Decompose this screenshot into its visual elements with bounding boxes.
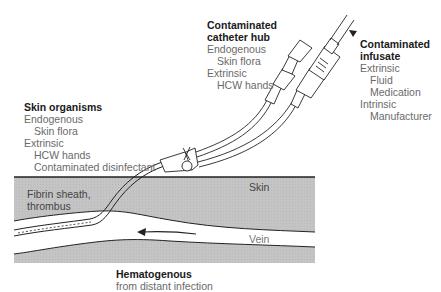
infusate-extrinsic-item1: Fluid xyxy=(360,74,432,86)
vein-label: Vein xyxy=(249,233,269,245)
hematogenous-detail: from distant infection xyxy=(116,280,213,292)
skin-extrinsic: Extrinsic xyxy=(24,137,155,149)
skin-extrinsic-item1: HCW hands xyxy=(24,149,155,161)
infusate-label: Contaminated infusate Extrinsic Fluid Me… xyxy=(360,38,432,122)
catheter-lumens xyxy=(196,98,296,167)
catheter-hub-title-line2: catheter hub xyxy=(207,31,277,43)
infusate-intrinsic-item: Manufacturer xyxy=(360,110,432,122)
skin-endogenous-item: Skin flora xyxy=(24,125,155,137)
hematogenous-title: Hematogenous xyxy=(116,268,213,280)
infusate-title-line2: infusate xyxy=(360,50,432,62)
skin-organisms-title: Skin organisms xyxy=(24,101,155,113)
hub-extrinsic-item: HCW hands xyxy=(207,79,277,91)
hub-endogenous-item: Skin flora xyxy=(207,55,277,67)
infusion-arrow-icon xyxy=(349,30,357,37)
infusate-title-line1: Contaminated xyxy=(360,38,432,50)
skin-label: Skin xyxy=(249,181,269,193)
fibrin-label-line2: thrombus xyxy=(27,200,91,212)
skin-endogenous: Endogenous xyxy=(24,113,155,125)
fibrin-label-line1: Fibrin sheath, xyxy=(27,188,91,200)
skin-extrinsic-item2: Contaminated disinfectant xyxy=(24,161,155,173)
hematogenous-label: Hematogenous from distant infection xyxy=(116,268,213,292)
infusate-intrinsic: Intrinsic xyxy=(360,98,432,110)
skin-organisms-label: Skin organisms Endogenous Skin flora Ext… xyxy=(24,101,155,173)
insertion-hub-icon xyxy=(160,147,198,172)
catheter-hub-label: Contaminated catheter hub Endogenous Ski… xyxy=(207,19,277,91)
infusate-extrinsic: Extrinsic xyxy=(360,62,432,74)
fibrin-sheath-label: Fibrin sheath, thrombus xyxy=(27,188,91,212)
hub-extrinsic: Extrinsic xyxy=(207,67,277,79)
catheter-hub-title-line1: Contaminated xyxy=(207,19,277,31)
infusate-extrinsic-item2: Medication xyxy=(360,86,432,98)
hub-endogenous: Endogenous xyxy=(207,43,277,55)
